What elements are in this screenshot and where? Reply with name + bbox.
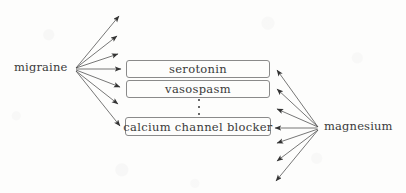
box-serotonin: serotonin	[126, 60, 270, 78]
node-label-migraine: migraine	[14, 62, 67, 74]
edge-migraine-to-calcium	[76, 71, 120, 126]
edge-migraine-up-3	[76, 54, 118, 68]
ellipsis-dot	[198, 99, 200, 101]
ellipsis-dot	[198, 106, 200, 108]
diagram-canvas: migraine magnesium serotonin vasospasm c…	[0, 0, 406, 193]
edge-migraine-to-vasospasm	[76, 70, 120, 87]
box-calcium-channel-blocker: calcium channel blocker	[125, 117, 271, 136]
edge-magnesium-down-2	[277, 130, 318, 161]
edge-magnesium-to-serotonin	[277, 70, 318, 127]
edges-from-magnesium	[275, 70, 318, 181]
edge-magnesium-to-vasospasm	[277, 89, 318, 127]
edge-magnesium-down-3	[276, 130, 318, 181]
edge-migraine-down-1	[76, 71, 118, 104]
vertical-ellipsis-icon	[193, 99, 205, 115]
edge-migraine-up-2	[76, 36, 117, 68]
node-label-magnesium: magnesium	[324, 121, 393, 133]
edge-migraine-up-1	[76, 16, 119, 68]
box-vasospasm: vasospasm	[126, 80, 270, 98]
edges-from-migraine	[76, 16, 121, 126]
edge-magnesium-down-1	[277, 129, 318, 143]
ellipsis-dot	[198, 113, 200, 115]
